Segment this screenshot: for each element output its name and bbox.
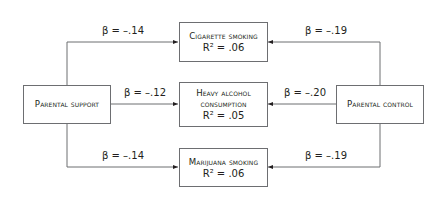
node-label: Marijuana smoking	[189, 157, 258, 168]
beta-control-cigarette: β = –.19	[305, 25, 347, 36]
beta-support-cigarette: β = –.14	[102, 25, 144, 36]
beta-support-marijuana: β = –.14	[102, 150, 144, 161]
r-squared: R² = .06	[203, 42, 245, 53]
arrow-support-to-cigarette	[67, 42, 178, 85]
beta-control-alcohol: β = –.20	[284, 87, 326, 98]
r-squared: R² = .06	[203, 168, 245, 179]
node-heavy-alcohol: Heavy alcohol consumption R² = .05	[179, 82, 268, 127]
node-cigarette-smoking: Cigarette smoking R² = .06	[179, 22, 268, 62]
node-parental-support: Parental support	[23, 85, 111, 124]
arrow-control-to-cigarette	[268, 42, 380, 85]
node-marijuana-smoking: Marijuana smoking R² = .06	[179, 148, 268, 187]
node-label-line2: consumption	[200, 99, 246, 110]
node-label: Parental control	[347, 99, 413, 110]
beta-control-marijuana: β = –.19	[305, 150, 347, 161]
node-label: Parental support	[35, 99, 99, 110]
beta-support-alcohol: β = –.12	[124, 87, 166, 98]
r-squared: R² = .05	[203, 110, 245, 121]
node-label: Heavy alcohol	[196, 88, 251, 99]
node-parental-control: Parental control	[336, 85, 424, 124]
node-label: Cigarette smoking	[189, 31, 257, 42]
